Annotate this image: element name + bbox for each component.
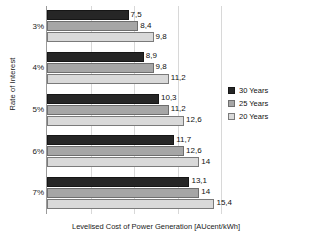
bar-4pct-25-years[interactable] (47, 63, 154, 73)
y-axis-tick-6pct: 6% (18, 147, 44, 156)
bar-group: 10,311,212,6 (47, 94, 220, 127)
gridline (221, 6, 222, 214)
bar-6pct-25-years[interactable] (47, 146, 184, 156)
bar-5pct-20-years[interactable] (47, 116, 184, 126)
bar-value-label: 10,3 (159, 93, 177, 102)
legend-swatch-icon (228, 87, 235, 94)
bar-row: 13,1 (47, 177, 220, 187)
bar-value-label: 7,5 (129, 10, 142, 19)
bar-group: 8,99,811,2 (47, 52, 220, 85)
bar-row: 12,6 (47, 116, 220, 126)
bar-row: 8,9 (47, 52, 220, 62)
bar-4pct-30-years[interactable] (47, 52, 144, 62)
y-axis-tick-3pct: 3% (18, 22, 44, 31)
legend-label: 30 Years (239, 86, 268, 95)
bar-value-label: 9,8 (154, 32, 167, 41)
y-axis-tick-7pct: 7% (18, 188, 44, 197)
legend-item-30-years[interactable]: 30 Years (228, 84, 268, 97)
bar-value-label: 9,8 (154, 62, 167, 71)
bar-row: 11,2 (47, 74, 220, 84)
bar-value-label: 11,2 (169, 104, 186, 113)
bar-group: 11,712,614 (47, 135, 220, 168)
bar-3pct-30-years[interactable] (47, 10, 129, 20)
legend-swatch-icon (228, 113, 235, 120)
bar-7pct-30-years[interactable] (47, 177, 189, 187)
bar-row: 8,4 (47, 21, 220, 31)
chart-legend: 30 Years25 Years20 Years (228, 84, 268, 123)
bar-3pct-25-years[interactable] (47, 21, 138, 31)
legend-swatch-icon (228, 100, 235, 107)
bar-group: 7,58,49,8 (47, 10, 220, 43)
bar-value-label: 15,4 (214, 198, 232, 207)
bar-value-label: 14 (199, 157, 210, 166)
legend-item-25-years[interactable]: 25 Years (228, 97, 268, 110)
bar-group: 13,11415,4 (47, 177, 220, 210)
bar-row: 12,6 (47, 146, 220, 156)
bar-value-label: 8,9 (144, 51, 157, 60)
bar-row: 14 (47, 188, 220, 198)
bar-4pct-20-years[interactable] (47, 74, 169, 84)
y-axis-tick-4pct: 4% (18, 63, 44, 72)
bar-row: 7,5 (47, 10, 220, 20)
legend-label: 20 Years (239, 112, 268, 121)
y-axis-tick-5pct: 5% (18, 105, 44, 114)
bar-row: 10,3 (47, 94, 220, 104)
bar-7pct-25-years[interactable] (47, 188, 199, 198)
bar-row: 11,7 (47, 135, 220, 145)
bar-5pct-30-years[interactable] (47, 94, 159, 104)
bar-7pct-20-years[interactable] (47, 199, 214, 209)
x-axis-title: Levelised Cost of Power Generation [AUce… (46, 222, 266, 231)
bar-value-label: 12,6 (184, 115, 202, 124)
bar-5pct-25-years[interactable] (47, 105, 169, 115)
bar-value-label: 8,4 (138, 21, 151, 30)
bar-row: 14 (47, 157, 220, 167)
legend-item-20-years[interactable]: 20 Years (228, 110, 268, 123)
bar-row: 9,8 (47, 63, 220, 73)
bar-value-label: 12,6 (184, 146, 202, 155)
bar-row: 11,2 (47, 105, 220, 115)
bar-6pct-20-years[interactable] (47, 157, 199, 167)
bar-value-label: 11,2 (169, 73, 186, 82)
bar-3pct-20-years[interactable] (47, 32, 154, 42)
bar-value-label: 13,1 (189, 176, 207, 185)
bar-row: 9,8 (47, 32, 220, 42)
bar-value-label: 11,7 (174, 135, 191, 144)
bar-chart: Rate of Interest 3%4%5%6%7% 7,58,49,88,9… (0, 0, 327, 241)
y-axis-title: Rate of Interest (8, 34, 20, 134)
bar-row: 15,4 (47, 199, 220, 209)
bar-value-label: 14 (199, 187, 210, 196)
plot-area: 7,58,49,88,99,811,210,311,212,611,712,61… (46, 6, 220, 214)
legend-label: 25 Years (239, 99, 268, 108)
bar-6pct-30-years[interactable] (47, 135, 174, 145)
